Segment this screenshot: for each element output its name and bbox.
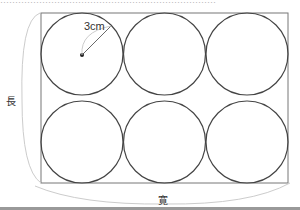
circles-in-rectangle-figure [0,0,300,210]
diagram-canvas: ……………………………………………………………… 3cm 長 寛 [0,0,300,210]
bottom-divider [0,207,300,210]
radius-label: 3cm [84,20,105,32]
length-label: 長 [6,93,16,108]
width-label: 寛 [158,192,168,207]
